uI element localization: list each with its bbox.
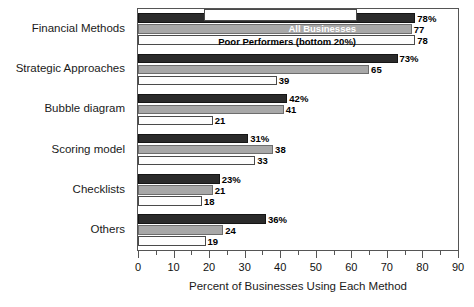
x-tick-major <box>174 251 175 258</box>
legend-item: Poor Performers (bottom 20%) <box>204 35 357 47</box>
x-axis-ticks <box>137 251 459 260</box>
x-tick-major <box>351 251 352 258</box>
category-label: Others <box>0 223 125 235</box>
x-tick-label: 40 <box>274 261 286 274</box>
x-tick-label: 80 <box>416 261 428 274</box>
x-tick-major <box>387 251 388 258</box>
bar <box>138 105 284 115</box>
bar-value-label: 42% <box>289 94 308 104</box>
x-tick-major <box>422 251 423 258</box>
legend-item: All Businesses <box>204 22 357 34</box>
x-tick-major <box>316 251 317 258</box>
x-tick-minor <box>298 251 299 255</box>
x-tick-minor <box>191 251 192 255</box>
bar-value-label: 41 <box>286 105 297 115</box>
category-label: Bubble diagram <box>0 102 125 114</box>
x-tick-minor <box>156 251 157 255</box>
bar-value-label: 33 <box>257 156 268 166</box>
bar-value-label: 18 <box>204 197 215 207</box>
bar <box>138 174 220 184</box>
bar <box>138 185 213 195</box>
chart-legend: All BusinessesPoor Performers (bottom 20… <box>204 9 357 47</box>
x-tick-label: 60 <box>345 261 357 274</box>
legend-item <box>204 9 357 21</box>
bar <box>138 134 248 144</box>
x-tick-minor <box>369 251 370 255</box>
bar-value-label: 31% <box>250 134 269 144</box>
x-tick-minor <box>440 251 441 255</box>
x-tick-major <box>280 251 281 258</box>
bar <box>138 225 223 235</box>
x-axis-title: Percent of Businesses Using Each Method <box>137 279 459 293</box>
x-tick-label: 10 <box>167 261 179 274</box>
bar <box>138 116 213 126</box>
x-tick-label: 0 <box>135 261 141 274</box>
x-tick-label: 30 <box>239 261 251 274</box>
bar <box>138 65 369 75</box>
bar-value-label: 65 <box>371 65 382 75</box>
bar-chart: Financial MethodsStrategic ApproachesBub… <box>0 0 474 307</box>
category-label: Strategic Approaches <box>0 62 125 74</box>
bar-value-label: 21 <box>215 116 226 126</box>
bar-value-label: 19 <box>208 237 219 247</box>
x-tick-major <box>209 251 210 258</box>
bar-value-label: 78% <box>417 14 436 24</box>
bar <box>138 94 287 104</box>
bar <box>138 196 202 206</box>
x-tick-label: 70 <box>381 261 393 274</box>
bar <box>138 236 206 246</box>
x-axis-tick-labels: 0102030405060708090 <box>137 261 459 277</box>
bar-value-label: 38 <box>275 145 286 155</box>
legend-swatch <box>204 9 357 21</box>
bar-value-label: 36% <box>268 215 287 225</box>
bar-value-label: 21 <box>215 186 226 196</box>
bar <box>138 54 398 64</box>
category-label: Checklists <box>0 183 125 195</box>
bar-value-label: 77 <box>414 25 425 35</box>
x-tick-minor <box>262 251 263 255</box>
category-label: Scoring model <box>0 143 125 155</box>
bar-value-label: 39 <box>279 76 290 86</box>
bar <box>138 76 277 86</box>
legend-label: All Businesses <box>288 23 357 34</box>
bar <box>138 156 255 166</box>
bar <box>138 214 266 224</box>
bar-value-label: 78 <box>417 36 428 46</box>
x-tick-minor <box>334 251 335 255</box>
category-label: Financial Methods <box>0 22 125 34</box>
bar-value-label: 23% <box>222 175 241 185</box>
bar <box>138 145 273 155</box>
x-tick-label: 50 <box>310 261 322 274</box>
x-tick-label: 20 <box>203 261 215 274</box>
category-axis-labels: Financial MethodsStrategic ApproachesBub… <box>0 8 131 251</box>
legend-label: Poor Performers (bottom 20%) <box>218 36 357 47</box>
bar-value-label: 24 <box>225 226 236 236</box>
x-tick-major <box>138 251 139 258</box>
x-tick-major <box>245 251 246 258</box>
bar-value-label: 73% <box>400 54 419 64</box>
x-tick-minor <box>405 251 406 255</box>
x-tick-major <box>458 251 459 258</box>
x-tick-label: 90 <box>452 261 464 274</box>
x-tick-minor <box>227 251 228 255</box>
